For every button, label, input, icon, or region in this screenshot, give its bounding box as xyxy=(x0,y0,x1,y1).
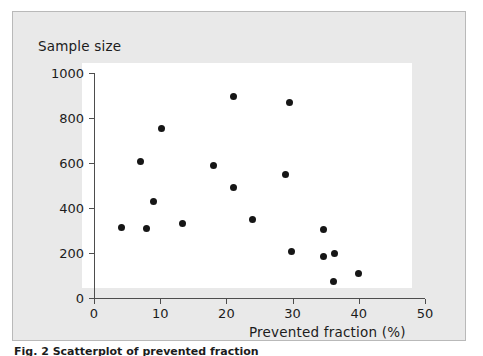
x-tick-label: 0 xyxy=(74,306,114,321)
y-tick-label: 200 xyxy=(59,246,84,261)
y-tick-label-wrap: 0 xyxy=(39,291,84,305)
x-tick-mark xyxy=(293,299,294,304)
x-tick-mark xyxy=(94,299,95,304)
x-tick-label: 20 xyxy=(206,306,246,321)
x-tick-label: 40 xyxy=(339,306,379,321)
y-tick-label-wrap: 800 xyxy=(39,111,84,125)
figure-frame: Sample size 02004006008001000 0102030405… xyxy=(12,11,466,341)
x-tick-mark xyxy=(359,299,360,304)
y-axis-title: Sample size xyxy=(38,38,121,54)
figure-caption: Fig. 2 Scatterplot of prevented fraction xyxy=(14,345,259,356)
y-tick-label: 0 xyxy=(76,291,84,306)
scatter-point xyxy=(118,224,125,231)
y-tick-label-wrap: 1000 xyxy=(39,66,84,80)
scatter-point xyxy=(230,184,237,191)
y-tick-label-wrap: 200 xyxy=(39,246,84,260)
x-tick-label: 30 xyxy=(273,306,313,321)
x-tick-label: 50 xyxy=(405,306,445,321)
x-axis-line xyxy=(94,298,425,299)
y-tick-label-wrap: 400 xyxy=(39,201,84,215)
y-tick-label: 1000 xyxy=(51,66,84,81)
y-tick-label-wrap: 600 xyxy=(39,156,84,170)
y-tick-label: 600 xyxy=(59,156,84,171)
scatter-point xyxy=(210,162,217,169)
scatter-point xyxy=(320,253,327,260)
x-tick-mark xyxy=(425,299,426,304)
scatter-point xyxy=(230,93,237,100)
x-tick-label: 10 xyxy=(140,306,180,321)
scatter-point xyxy=(158,125,165,132)
scatter-point xyxy=(150,198,157,205)
y-tick-mark xyxy=(89,208,94,209)
scatter-point xyxy=(286,99,293,106)
y-tick-mark xyxy=(89,253,94,254)
y-tick-label: 800 xyxy=(59,111,84,126)
y-tick-label: 400 xyxy=(59,201,84,216)
plot-area xyxy=(82,63,412,288)
y-tick-mark xyxy=(89,73,94,74)
y-tick-mark xyxy=(89,163,94,164)
y-tick-mark xyxy=(89,118,94,119)
y-axis-line xyxy=(94,73,95,299)
x-tick-mark xyxy=(160,299,161,304)
scatter-point xyxy=(331,250,338,257)
x-axis-title: Prevented fraction (%) xyxy=(249,324,406,340)
scatter-point xyxy=(179,220,186,227)
x-tick-mark xyxy=(226,299,227,304)
